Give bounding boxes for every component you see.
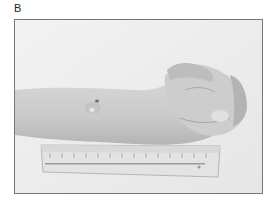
clinical-photo (14, 19, 263, 194)
ruler (41, 145, 220, 177)
panel-label: B (14, 1, 21, 15)
photo-illustration (15, 20, 262, 193)
